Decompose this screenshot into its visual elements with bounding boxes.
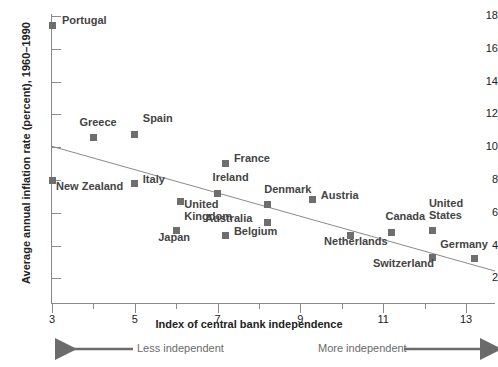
data-point-marker — [49, 22, 56, 29]
data-point-marker — [131, 180, 138, 187]
data-point-marker — [222, 232, 229, 239]
y-tick-mark — [52, 278, 61, 279]
x-axis-line — [51, 303, 495, 304]
data-point-label: Germany — [440, 238, 488, 250]
data-point-marker — [90, 134, 97, 141]
data-point-label: Spain — [143, 112, 173, 124]
data-point-marker — [388, 229, 395, 236]
y-tick-label: 8 — [452, 173, 498, 185]
data-point-label: Japan — [158, 231, 190, 243]
y-tick-label: 12 — [452, 107, 498, 119]
x-tick-label: 11 — [368, 313, 398, 325]
y-tick-mark — [52, 114, 61, 115]
x-tick-mark — [218, 304, 219, 313]
x-tick-mark-minor — [259, 304, 260, 309]
x-tick-mark — [52, 304, 53, 313]
data-point-marker — [222, 160, 229, 167]
data-point-label: Switzerland — [373, 257, 434, 269]
data-point-label: Australia — [205, 212, 252, 224]
y-tick-label: 10 — [452, 140, 498, 152]
y-tick-mark — [52, 213, 61, 214]
y-tick-label: 14 — [452, 75, 498, 87]
more-independent-label: More independent — [318, 342, 407, 354]
data-point-label: Italy — [143, 173, 165, 185]
data-point-label: Ireland — [213, 171, 249, 183]
data-point-label: Austria — [321, 189, 359, 201]
data-point-label: Belgium — [234, 225, 277, 237]
data-point-label: New Zealand — [56, 180, 123, 192]
x-tick-mark-minor — [342, 304, 343, 309]
x-tick-label: 7 — [203, 313, 233, 325]
x-tick-mark — [383, 304, 384, 313]
y-tick-mark — [52, 16, 61, 17]
data-point-label: Greece — [79, 116, 116, 128]
data-point-label: Netherlands — [324, 235, 388, 247]
data-point-marker — [131, 131, 138, 138]
x-tick-mark-minor — [176, 304, 177, 309]
data-point-marker — [264, 201, 271, 208]
data-point-label: UnitedStates — [429, 197, 463, 221]
y-axis-title: Average annual inflation rate (percent),… — [20, 24, 32, 284]
scatter-chart: Average annual inflation rate (percent),… — [0, 0, 498, 367]
data-point-label: Canada — [385, 210, 425, 222]
y-tick-mark — [52, 246, 61, 247]
y-tick-mark — [52, 147, 61, 148]
y-tick-label: 18 — [452, 9, 498, 21]
x-tick-label: 9 — [285, 313, 315, 325]
x-tick-label: 13 — [451, 313, 481, 325]
y-tick-mark — [52, 49, 61, 50]
data-point-marker — [264, 219, 271, 226]
data-point-marker — [429, 227, 436, 234]
x-axis-title: Index of central bank independence — [0, 318, 498, 330]
data-point-marker — [214, 190, 221, 197]
arrow-graphics — [0, 336, 498, 362]
y-tick-label: 2 — [452, 271, 498, 283]
x-tick-label: 5 — [120, 313, 150, 325]
x-tick-mark — [300, 304, 301, 313]
x-tick-mark — [466, 304, 467, 313]
data-point-marker — [49, 177, 56, 184]
data-point-marker — [471, 255, 478, 262]
data-point-marker — [309, 196, 316, 203]
data-point-label: Portugal — [62, 14, 107, 26]
less-independent-label: Less independent — [137, 342, 224, 354]
x-tick-mark-minor — [425, 304, 426, 309]
x-tick-mark — [135, 304, 136, 313]
data-point-label: France — [234, 152, 270, 164]
independence-scale-annotation: Less independent More independent — [0, 336, 498, 362]
data-point-label: Denmark — [264, 183, 311, 195]
y-axis-line — [51, 14, 52, 304]
x-tick-label: 3 — [37, 313, 67, 325]
data-point-marker — [177, 198, 184, 205]
y-tick-label: 16 — [452, 42, 498, 54]
x-tick-mark-minor — [93, 304, 94, 309]
y-tick-mark — [52, 82, 61, 83]
